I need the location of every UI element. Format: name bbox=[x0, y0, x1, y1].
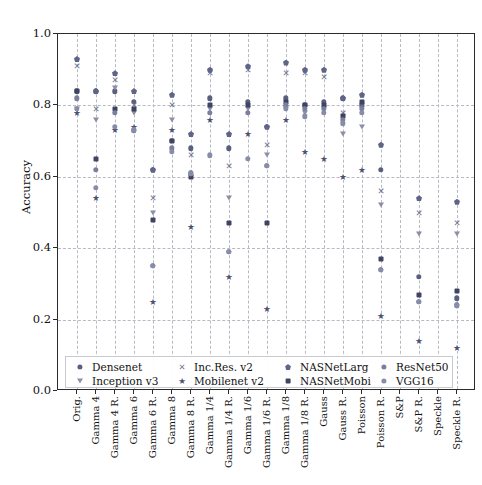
x-tick-label: Gamma 1/4 bbox=[204, 396, 215, 454]
data-point bbox=[150, 210, 156, 215]
legend-label: Inception v3 bbox=[92, 374, 158, 388]
data-point bbox=[227, 221, 232, 226]
x-tick-mark bbox=[456, 390, 457, 394]
marker-star-icon: ★ bbox=[178, 377, 186, 386]
marker-pentagon-icon bbox=[285, 364, 291, 370]
legend-label: Densenet bbox=[92, 360, 142, 374]
gridline-vertical bbox=[210, 34, 211, 389]
data-point: ✕ bbox=[377, 187, 385, 196]
data-point bbox=[378, 167, 383, 172]
data-point bbox=[416, 299, 421, 304]
data-point: ★ bbox=[168, 126, 176, 135]
legend-label: NASNetMobi bbox=[300, 374, 371, 388]
x-tick-mark bbox=[380, 390, 381, 394]
y-tick-label: 0.0 bbox=[18, 383, 51, 397]
x-tick-mark bbox=[342, 390, 343, 394]
x-tick-mark bbox=[323, 390, 324, 394]
data-point bbox=[359, 110, 364, 115]
data-point: ★ bbox=[282, 115, 290, 124]
legend-marker: ✕ bbox=[178, 363, 186, 371]
y-tick-label: 0.2 bbox=[18, 312, 51, 326]
data-point: ✕ bbox=[225, 162, 233, 171]
x-tick-label: Poisson R. bbox=[375, 396, 386, 448]
data-point bbox=[151, 217, 156, 222]
legend-marker bbox=[381, 364, 386, 369]
legend-marker bbox=[381, 378, 386, 383]
data-point bbox=[93, 167, 98, 172]
x-tick-label: Gauss R. bbox=[337, 396, 348, 441]
marker-circle-icon bbox=[77, 364, 82, 369]
x-tick-label: Gamma 1/6 R. bbox=[261, 396, 272, 468]
x-tick-label: Orig. bbox=[71, 396, 82, 422]
y-tick-label: 0.4 bbox=[18, 240, 51, 254]
data-point: ✕ bbox=[187, 151, 195, 160]
data-point bbox=[378, 203, 384, 208]
x-tick-mark bbox=[437, 390, 438, 394]
data-point bbox=[207, 96, 212, 101]
data-point bbox=[378, 142, 384, 148]
x-tick-label: Gamma 6 R. bbox=[147, 396, 158, 458]
data-point bbox=[321, 67, 327, 73]
x-tick-mark bbox=[304, 390, 305, 394]
legend-marker: ★ bbox=[178, 377, 186, 386]
data-point bbox=[340, 121, 345, 126]
x-tick-label: Gamma 1/8 R. bbox=[299, 396, 310, 468]
data-point bbox=[170, 139, 175, 144]
x-tick-label: Gamma 6 bbox=[128, 396, 139, 444]
x-tick-mark bbox=[266, 390, 267, 394]
data-point bbox=[321, 110, 326, 115]
x-tick-mark bbox=[133, 390, 134, 394]
data-point bbox=[264, 153, 270, 158]
x-tick-label: Gamma 4 bbox=[90, 396, 101, 444]
chart-legend: DensenetInception v3✕Inc.Res. v2★Mobilen… bbox=[65, 356, 453, 388]
data-point: ★ bbox=[92, 194, 100, 203]
data-point bbox=[360, 99, 365, 104]
data-point bbox=[226, 131, 232, 137]
legend-marker bbox=[77, 379, 83, 384]
data-point: ✕ bbox=[92, 105, 100, 114]
data-point: ★ bbox=[301, 147, 309, 156]
data-point bbox=[246, 103, 251, 108]
x-tick-mark bbox=[361, 390, 362, 394]
data-point bbox=[74, 96, 79, 101]
data-point: ★ bbox=[415, 337, 423, 346]
data-point bbox=[245, 156, 250, 161]
legend-label: NASNetLarg bbox=[300, 360, 369, 374]
data-point bbox=[454, 199, 460, 205]
x-tick-mark bbox=[171, 390, 172, 394]
x-tick-mark bbox=[228, 390, 229, 394]
marker-x-icon: ✕ bbox=[178, 363, 186, 371]
data-point bbox=[226, 249, 231, 254]
x-tick-mark bbox=[209, 390, 210, 394]
data-point: ✕ bbox=[263, 140, 271, 149]
x-tick-label: Speckle R. bbox=[451, 396, 462, 450]
gridline-vertical bbox=[305, 34, 306, 389]
gridline-horizontal bbox=[58, 248, 474, 249]
data-point bbox=[454, 303, 459, 308]
x-tick-mark bbox=[190, 390, 191, 394]
x-tick-label: Gamma 1/8 bbox=[280, 396, 291, 454]
data-point bbox=[169, 92, 175, 98]
data-point bbox=[455, 289, 460, 294]
gridline-vertical bbox=[324, 34, 325, 389]
data-point bbox=[208, 103, 213, 108]
data-point bbox=[283, 60, 289, 66]
plot-area: ✕✕✕✕✕✕✕✕✕✕✕✕✕✕✕✕✕✕✕★★★★★★★★★★★★★★★★★★★ bbox=[57, 33, 475, 390]
gridline-vertical bbox=[191, 34, 192, 389]
data-point: ★ bbox=[453, 344, 461, 353]
gridline-horizontal bbox=[58, 177, 474, 178]
data-point bbox=[132, 106, 137, 111]
gridline-vertical bbox=[286, 34, 287, 389]
data-point: ★ bbox=[225, 272, 233, 281]
gridline-vertical bbox=[229, 34, 230, 389]
data-point bbox=[93, 185, 98, 190]
x-tick-mark bbox=[95, 390, 96, 394]
data-point: ★ bbox=[377, 312, 385, 321]
gridline-vertical bbox=[134, 34, 135, 389]
data-point: ✕ bbox=[282, 69, 290, 78]
data-point bbox=[93, 117, 99, 122]
gridline-horizontal bbox=[58, 320, 474, 321]
data-point: ★ bbox=[358, 165, 366, 174]
gridline-vertical bbox=[77, 34, 78, 389]
x-tick-mark bbox=[152, 390, 153, 394]
